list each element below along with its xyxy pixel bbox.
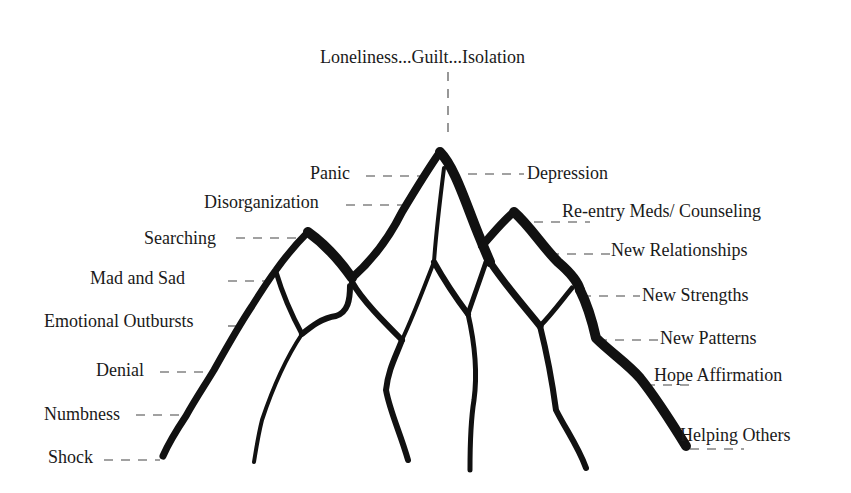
label-searching: Searching bbox=[144, 228, 216, 248]
label-depression: Depression bbox=[527, 163, 608, 183]
label-shock: Shock bbox=[48, 447, 93, 467]
label-emotional-outbursts: Emotional Outbursts bbox=[44, 311, 194, 331]
label-new-strengths: New Strengths bbox=[642, 285, 749, 305]
label-numbness: Numbness bbox=[44, 404, 120, 424]
label-panic: Panic bbox=[310, 163, 350, 183]
label-new-patterns: New Patterns bbox=[660, 328, 756, 348]
label-denial: Denial bbox=[96, 360, 144, 380]
label-new-relationships: New Relationships bbox=[611, 240, 748, 260]
label-hope-affirmation: Hope Affirmation bbox=[654, 365, 782, 385]
label-disorganization: Disorganization bbox=[204, 192, 319, 212]
label-mad-and-sad: Mad and Sad bbox=[90, 268, 185, 288]
label-helping-others: Helping Others bbox=[680, 425, 790, 445]
summit-label: Loneliness...Guilt...Isolation bbox=[320, 47, 525, 67]
label-re-entry: Re-entry Meds/ Counseling bbox=[562, 201, 761, 221]
grief-mountain-diagram: Loneliness...Guilt...Isolation Panic Dis… bbox=[0, 0, 851, 493]
